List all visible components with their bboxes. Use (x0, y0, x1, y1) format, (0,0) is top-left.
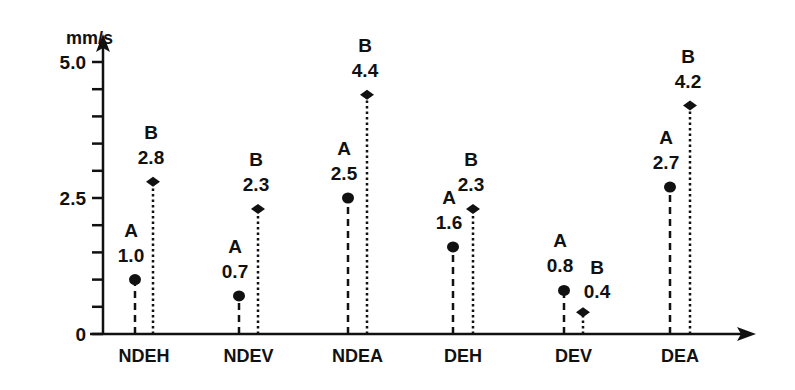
series-a-value-label: 2.5 (331, 163, 358, 184)
x-category-label: DEV (555, 346, 592, 366)
y-axis-label: mm/s (66, 28, 113, 48)
data-points: 1.0A2.8B0.7A2.3B2.5A4.4B1.6A2.3B0.8A0.4B… (118, 35, 701, 334)
series-a-circle-marker (233, 290, 245, 301)
axes (90, 34, 756, 341)
series-b-value-label: 4.4 (352, 60, 379, 81)
x-category-label: NDEA (332, 346, 383, 366)
series-a-name-label: A (659, 127, 673, 148)
lollipop-chart: 02.55.0 NDEHNDEVNDEADEHDEVDEA 1.0A2.8B0.… (0, 0, 795, 390)
series-a-name-label: A (553, 230, 567, 251)
series-a-value-label: 2.7 (653, 152, 679, 173)
series-b-diamond-marker (576, 307, 590, 317)
series-b-name-label: B (464, 149, 478, 170)
series-b-name-label: B (358, 35, 372, 56)
series-a-name-label: A (442, 187, 456, 208)
series-a-value-label: 0.8 (547, 255, 573, 276)
series-b-value-label: 2.3 (243, 174, 269, 195)
series-a-value-label: 1.6 (436, 212, 462, 233)
series-b-diamond-marker (146, 177, 160, 187)
series-b-value-label: 0.4 (584, 281, 611, 302)
series-b-diamond-marker (360, 90, 374, 100)
series-a-name-label: A (337, 138, 351, 159)
series-a-circle-marker (129, 274, 141, 285)
series-b-value-label: 2.3 (458, 174, 484, 195)
x-category-label: DEA (661, 346, 699, 366)
series-b-diamond-marker (683, 101, 697, 111)
series-b-diamond-marker (251, 204, 265, 214)
series-b-value-label: 4.2 (675, 71, 701, 92)
series-b-name-label: B (681, 46, 695, 67)
series-a-circle-marker (664, 182, 676, 193)
series-b-name-label: B (590, 257, 604, 278)
y-tick-label: 0 (75, 324, 86, 345)
series-a-value-label: 0.7 (222, 261, 248, 282)
y-tick-label: 2.5 (60, 188, 87, 209)
series-a-circle-marker (342, 193, 354, 204)
series-a-name-label: A (228, 236, 242, 257)
x-category-label: NDEV (223, 346, 273, 366)
series-a-value-label: 1.0 (118, 245, 144, 266)
x-category-label: DEH (444, 346, 482, 366)
series-a-circle-marker (447, 241, 459, 252)
series-a-name-label: A (124, 220, 138, 241)
series-a-circle-marker (558, 285, 570, 296)
series-b-name-label: B (144, 122, 158, 143)
x-axis-category-labels: NDEHNDEVNDEADEHDEVDEA (118, 346, 699, 366)
series-b-value-label: 2.8 (138, 147, 164, 168)
series-b-name-label: B (249, 149, 263, 170)
y-tick-label: 5.0 (60, 52, 86, 73)
y-axis-ticks: 02.55.0 (60, 52, 103, 345)
x-category-label: NDEH (118, 346, 169, 366)
series-b-diamond-marker (466, 204, 480, 214)
